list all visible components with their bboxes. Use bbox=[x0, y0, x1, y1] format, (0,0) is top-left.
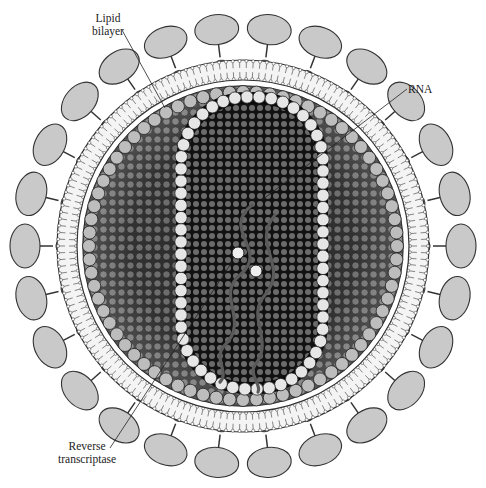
capsid-core bbox=[175, 91, 329, 395]
label-rna: RNA bbox=[408, 83, 432, 96]
label-line: RNA bbox=[408, 83, 432, 96]
reverse-transcriptase-molecule bbox=[250, 265, 262, 277]
label-line: bilayer bbox=[92, 25, 124, 38]
reverse-transcriptase-molecule bbox=[232, 247, 244, 259]
label-line: transcriptase bbox=[58, 453, 116, 466]
label-line: Lipid bbox=[92, 12, 124, 25]
label-line: Reverse bbox=[58, 440, 116, 453]
virion-diagram: Lipid bilayer RNA Reverse transcriptase bbox=[0, 0, 486, 488]
label-lipid-bilayer: Lipid bilayer bbox=[92, 12, 124, 38]
virion-illustration bbox=[0, 0, 486, 488]
label-reverse-transcriptase: Reverse transcriptase bbox=[58, 440, 116, 466]
